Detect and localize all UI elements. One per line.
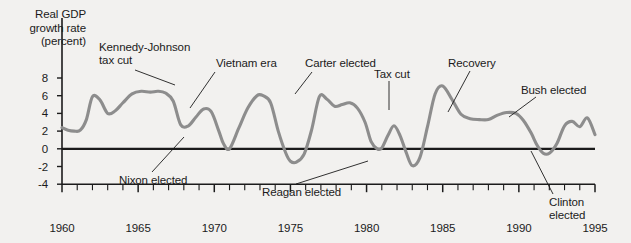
annotation-carter-elected: Carter elected: [305, 57, 376, 70]
y-tick-label-6: 6: [26, 90, 48, 102]
annotation-tax-cut: Tax cut: [374, 68, 410, 81]
leader-vietnam-era: [190, 72, 215, 108]
annotation-kennedy-johnson-tax-cut: Kennedy-Johnson tax cut: [99, 41, 190, 67]
gdp-growth-chart: Real GDP growth rate (percent) 8 6 4 2 0…: [0, 0, 631, 243]
annotation-nixon-elected: Nixon elected: [119, 174, 187, 187]
x-tick-label-1990: 1990: [506, 222, 531, 234]
y-axis-title-line1: Real GDP: [8, 8, 86, 22]
annotation-clinton-elected: Clinton elected: [549, 196, 585, 222]
annotation-clinton-line1: Clinton: [549, 196, 585, 209]
leader-carter-elected: [295, 72, 312, 94]
leader-nixon-elected: [152, 137, 184, 172]
annotation-kennedy-johnson-line1: Kennedy-Johnson: [99, 41, 190, 54]
y-axis-title: Real GDP growth rate (percent): [8, 8, 86, 49]
annotation-vietnam-era: Vietnam era: [216, 57, 277, 70]
annotation-reagan-elected: Reagan elected: [262, 186, 341, 199]
y-axis-title-line2: growth rate: [8, 22, 86, 36]
y-tick-label-2: 2: [26, 125, 48, 137]
x-tick-label-1960: 1960: [49, 222, 74, 234]
y-axis-title-line3: (percent): [8, 35, 86, 49]
leader-kennedy-johnson: [135, 70, 175, 85]
y-tick-label-neg2: -2: [22, 161, 48, 173]
leader-reagan-elected: [296, 161, 368, 184]
gdp-growth-line: [62, 86, 595, 166]
leader-recovery: [448, 71, 470, 112]
y-tick-label-4: 4: [26, 107, 48, 119]
annotation-kennedy-johnson-line2: tax cut: [99, 54, 190, 67]
x-tick-label-1975: 1975: [278, 222, 303, 234]
y-tick-label-0: 0: [26, 143, 48, 155]
y-tick-label-8: 8: [26, 72, 48, 84]
x-tick-label-1965: 1965: [126, 222, 151, 234]
annotation-clinton-line2: elected: [549, 209, 585, 222]
chart-plot-area: [0, 0, 631, 243]
x-tick-label-1980: 1980: [354, 222, 379, 234]
x-tick-label-1970: 1970: [202, 222, 227, 234]
x-tick-label-1985: 1985: [430, 222, 455, 234]
annotation-recovery: Recovery: [448, 57, 496, 70]
x-tick-label-1995: 1995: [582, 222, 607, 234]
annotation-bush-elected: Bush elected: [521, 84, 586, 97]
y-tick-label-neg4: -4: [22, 178, 48, 190]
leader-bush-elected: [509, 97, 536, 117]
